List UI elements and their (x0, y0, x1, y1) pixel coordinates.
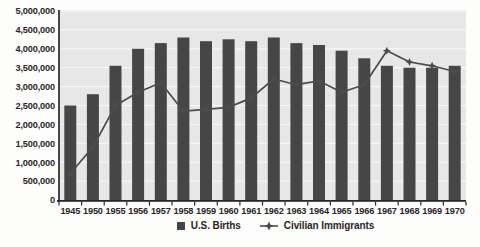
legend: U.S. Births Civilian Immigrants (59, 220, 466, 231)
x-tick-label: 1957 (151, 206, 171, 216)
immigrants-legend-label: Civilian Immigrants (284, 220, 374, 231)
bar-1969 (426, 68, 438, 200)
bar-1956 (132, 49, 144, 200)
x-tick-label: 1959 (196, 206, 216, 216)
bar-1961 (245, 41, 257, 200)
x-tick-label: 1958 (173, 206, 193, 216)
y-tick-label: 1,000,000 (15, 158, 55, 168)
y-tick-label: 0 (50, 195, 55, 205)
bar-1967 (381, 66, 393, 200)
x-tick-label: 1968 (400, 206, 420, 216)
y-tick-label: 3,000,000 (15, 82, 55, 92)
bar-1955 (110, 66, 122, 200)
x-tick-label: 1950 (83, 206, 103, 216)
chart: 0500,0001,000,0001,500,0002,000,0002,500… (0, 0, 480, 247)
y-tick-label: 1,500,000 (15, 139, 55, 149)
y-tick-label: 2,000,000 (15, 120, 55, 130)
legend-entry-births: U.S. Births (177, 220, 241, 231)
x-tick-label: 1960 (219, 206, 239, 216)
y-tick-label: 2,500,000 (15, 101, 55, 111)
bar-1962 (268, 38, 280, 201)
x-tick-label: 1963 (286, 206, 306, 216)
x-tick-label: 1962 (264, 206, 284, 216)
bar-1970 (449, 66, 461, 200)
births-swatch-icon (177, 222, 185, 230)
bar-1958 (177, 38, 189, 201)
plot-svg: 0500,0001,000,0001,500,0002,000,0002,500… (0, 0, 480, 247)
x-tick-label: 1966 (354, 206, 374, 216)
x-axis-line (57, 200, 466, 202)
bar-1965 (336, 51, 348, 200)
y-tick-label: 3,500,000 (15, 63, 55, 73)
bar-1968 (404, 68, 416, 200)
x-tick-label: 1945 (60, 206, 80, 216)
bar-1957 (155, 43, 167, 200)
y-tick-label: 4,500,000 (15, 25, 55, 35)
bar-1964 (313, 45, 325, 200)
line-star-marker-icon (260, 221, 278, 231)
x-tick-label: 1964 (309, 206, 330, 216)
x-tick-label: 1967 (377, 206, 397, 216)
y-tick-label: 500,000 (23, 176, 55, 186)
bar-1959 (200, 41, 212, 200)
x-tick-label: 1965 (332, 206, 352, 216)
x-tick-label: 1956 (128, 206, 148, 216)
births-legend-label: U.S. Births (191, 220, 241, 231)
bar-1960 (223, 39, 235, 200)
y-tick-label: 5,000,000 (15, 6, 55, 16)
y-tick-label: 4,000,000 (15, 44, 55, 54)
x-tick-label: 1970 (445, 206, 465, 216)
x-tick-label: 1955 (106, 206, 126, 216)
x-tick-label: 1969 (422, 206, 442, 216)
bar-1945 (64, 106, 76, 201)
legend-entry-immigrants: Civilian Immigrants (260, 220, 374, 231)
x-tick-label: 1961 (241, 206, 261, 216)
bar-1963 (290, 43, 302, 200)
